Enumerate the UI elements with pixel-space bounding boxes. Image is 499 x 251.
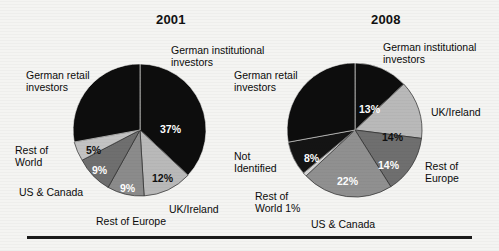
- label-2001-german-institutional: German institutional investors: [171, 44, 264, 68]
- value-2008-german-institutional: 13%: [359, 103, 380, 115]
- figure-canvas: 2001 2008: [0, 0, 499, 251]
- label-2008-not-identified: Not Identified: [234, 150, 277, 174]
- label-2008-german-institutional: German institutional investors: [383, 41, 476, 65]
- value-2001-german-institutional: 37%: [160, 123, 181, 135]
- value-2008-uk-ireland: 14%: [382, 131, 403, 143]
- value-2008-not-identified: 8%: [304, 152, 319, 164]
- value-2001-rest-of-europe: 9%: [120, 182, 135, 194]
- label-2008-uk-ireland: UK/Ireland: [431, 106, 481, 118]
- label-2008-rest-of-world: Rest of World 1%: [255, 190, 300, 214]
- label-2001-german-retail: German retail investors: [26, 69, 90, 93]
- value-2001-rest-of-world: 5%: [86, 144, 101, 156]
- footer-rule: [27, 236, 472, 239]
- label-2001-rest-of-world: Rest of World: [15, 144, 48, 168]
- label-2001-us-canada: US & Canada: [19, 186, 83, 198]
- value-2001-uk-ireland: 12%: [152, 172, 173, 184]
- pie-2001: [73, 64, 206, 196]
- label-2008-german-retail: German retail investors: [234, 69, 298, 93]
- label-2001-rest-of-europe: Rest of Europe: [96, 215, 166, 227]
- pie-charts-svg: [0, 0, 499, 251]
- label-2008-us-canada: US & Canada: [311, 218, 375, 230]
- value-2008-us-canada: 22%: [337, 175, 358, 187]
- label-2001-uk-ireland: UK/Ireland: [169, 203, 219, 215]
- value-2001-us-canada: 9%: [92, 164, 107, 176]
- value-2008-rest-of-europe: 14%: [378, 159, 399, 171]
- label-2008-rest-of-europe: Rest of Europe: [425, 160, 459, 184]
